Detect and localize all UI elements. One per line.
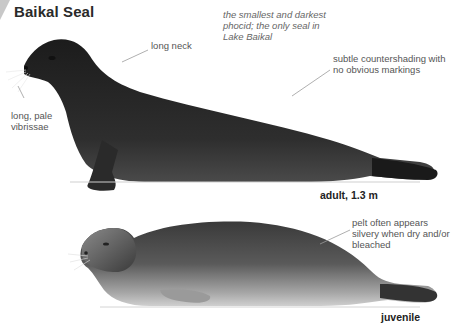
- leader-pelt: [320, 230, 350, 244]
- annotation-summary: the smallest and darkest phocid; the onl…: [223, 9, 331, 42]
- annotation-pelt: pelt often appears silvery when dry and/…: [352, 217, 451, 250]
- juvenile-eye: [103, 242, 109, 245]
- adult-eye: [49, 56, 56, 60]
- leader-long-neck: [122, 50, 148, 62]
- caption-juvenile: juvenile: [381, 311, 420, 323]
- leader-countershading: [292, 70, 330, 96]
- annotation-long-neck: long neck: [151, 40, 192, 51]
- caption-adult: adult, 1.3 m: [320, 189, 378, 201]
- adult-nose: [24, 66, 28, 70]
- seal-illustration: [0, 0, 451, 326]
- juvenile-nose: [84, 251, 88, 255]
- annotation-vibrissae: long, pale vibrissae: [11, 110, 63, 132]
- annotation-countershading: subtle countershading with no obvious ma…: [333, 53, 451, 75]
